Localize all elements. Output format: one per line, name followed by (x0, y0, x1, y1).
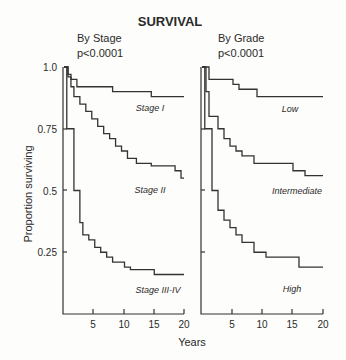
y-tick-075: 0.75 (38, 124, 58, 135)
right-x-tick-20: 20 (317, 319, 329, 330)
survival-curve-stage-ii (64, 67, 184, 178)
stage-i-label: Stage I (136, 103, 165, 113)
left-p-value: p<0.0001 (77, 47, 123, 59)
low-label: Low (282, 104, 299, 114)
right-x-tick-15: 15 (286, 319, 298, 330)
survival-curve-stage-i (64, 67, 184, 97)
high-label: High (283, 284, 302, 294)
survival-curve-low (202, 67, 323, 97)
left-x-tick-5: 5 (90, 319, 96, 330)
y-axis-label: Proportion surviving (22, 145, 34, 242)
right-subtitle: By Grade (218, 32, 264, 44)
left-x-tick-10: 10 (118, 319, 130, 330)
survival-chart: SURVIVAL By Stage p<0.0001 By Grade p<0.… (0, 0, 346, 360)
y-tick-025: 0.25 (38, 247, 58, 258)
survival-curve-intermediate (202, 67, 323, 176)
left-x-tick-20: 20 (178, 319, 190, 330)
left-subtitle: By Stage (77, 32, 122, 44)
left-curves (64, 67, 184, 274)
right-p-value: p<0.0001 (218, 47, 264, 59)
right-curves (202, 67, 323, 267)
intermediate-label: Intermediate (272, 186, 322, 196)
y-tick-1: 1.0 (43, 62, 57, 73)
x-axis-label: Years (178, 336, 206, 348)
y-tick-05: 0.5 (43, 186, 57, 197)
survival-curve-stage-iii-iv (64, 67, 184, 274)
left-x-tick-15: 15 (148, 319, 160, 330)
stage-ii-label: Stage II (134, 185, 166, 195)
stage-iii-iv-label: Stage III-IV (135, 285, 181, 295)
right-x-tick-10: 10 (256, 319, 268, 330)
chart-title: SURVIVAL (138, 14, 203, 29)
right-x-tick-5: 5 (229, 319, 235, 330)
